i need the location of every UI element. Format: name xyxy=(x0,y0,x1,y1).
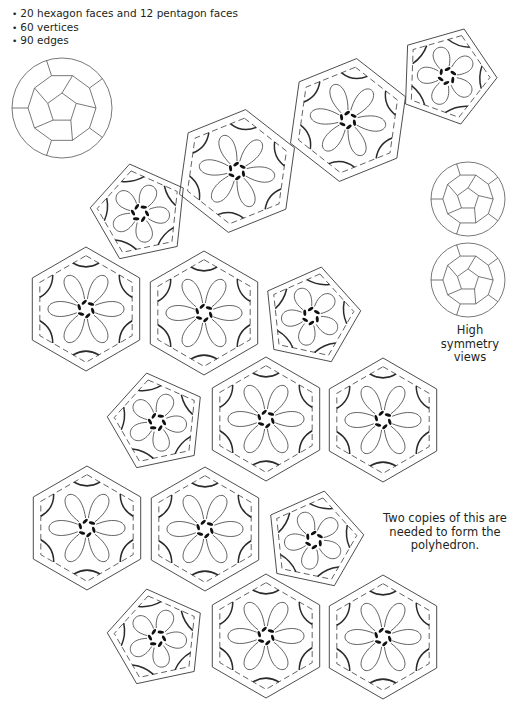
hexagon-face xyxy=(212,574,319,698)
hexagon-face xyxy=(291,59,406,182)
hexagon-face xyxy=(212,357,319,481)
pentagon-face xyxy=(107,589,200,684)
pentagon-face xyxy=(406,29,497,124)
hexagon-face xyxy=(33,466,140,590)
hexagon-face xyxy=(329,358,436,482)
fact-edges: 90 edges xyxy=(12,34,238,48)
polyhedron-facts-list: 20 hexagon faces and 12 pentagon faces 6… xyxy=(12,7,238,48)
hexagon-face xyxy=(151,467,258,591)
perspective-view-ball xyxy=(12,58,112,158)
hexagon-face xyxy=(329,575,436,699)
pentagon-face xyxy=(268,267,361,362)
hexagon-face xyxy=(150,251,257,375)
fact-faces: 20 hexagon faces and 12 pentagon faces xyxy=(12,7,238,21)
copies-note-caption: Two copies of this are needed to form th… xyxy=(380,512,510,553)
symmetry-view-bottom-ball xyxy=(431,243,505,317)
symmetry-view-top-ball xyxy=(431,162,505,236)
symmetry-views-caption: High symmetry views xyxy=(432,324,508,365)
fact-vertices: 60 vertices xyxy=(12,21,238,35)
pentagon-face xyxy=(271,491,364,586)
pentagon-face xyxy=(90,164,183,259)
net-faces xyxy=(32,29,497,699)
polyhedron-views xyxy=(12,58,505,317)
hexagon-face xyxy=(32,247,139,371)
pentagon-face xyxy=(107,373,200,468)
hexagon-face xyxy=(180,110,295,233)
